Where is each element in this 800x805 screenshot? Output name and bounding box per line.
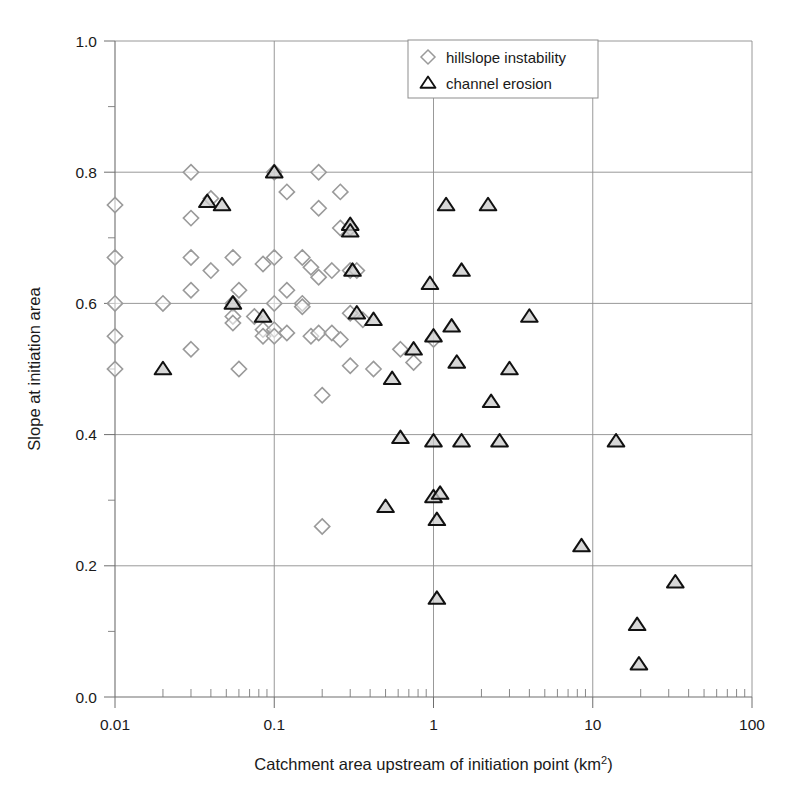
data-point-channel-erosion [608,434,625,446]
x-axis-title-tail: ) [607,755,613,773]
data-point-hillslope-instability [406,355,421,370]
data-point-hillslope-instability [183,165,198,180]
legend-item-label: channel erosion [446,75,552,92]
ticks-group [104,41,752,708]
data-point-channel-erosion [480,198,497,210]
data-point-hillslope-instability [324,263,339,278]
data-point-hillslope-instability [183,342,198,357]
data-point-hillslope-instability [107,296,122,311]
x-tick-label: 100 [739,716,765,733]
data-point-hillslope-instability [279,283,294,298]
y-tick-label: 0.4 [75,426,97,443]
data-point-channel-erosion [155,362,172,374]
data-point-channel-erosion [573,539,590,551]
data-point-channel-erosion [453,263,470,275]
data-point-hillslope-instability [311,201,326,216]
data-point-channel-erosion [501,362,518,374]
data-point-channel-erosion [422,276,439,288]
data-point-hillslope-instability [183,283,198,298]
data-point-hillslope-instability [107,197,122,212]
y-tick-label: 0.6 [75,295,97,312]
data-point-channel-erosion [667,575,684,587]
y-tick-label: 0.2 [75,557,97,574]
y-tick-label: 1.0 [75,33,97,50]
legend: hillslope instabilitychannel erosion [408,40,598,98]
data-point-channel-erosion [438,198,455,210]
data-point-channel-erosion [521,309,538,321]
data-point-channel-erosion [425,329,442,341]
data-point-hillslope-instability [315,388,330,403]
x-axis-title: Catchment area upstream of initiation po… [254,754,612,773]
series-channel-erosion [155,165,684,669]
data-point-channel-erosion [384,372,401,384]
data-point-channel-erosion [443,319,460,331]
data-point-hillslope-instability [343,358,358,373]
data-point-channel-erosion [429,513,446,525]
data-point-hillslope-instability [107,361,122,376]
data-point-hillslope-instability [107,329,122,344]
data-point-channel-erosion [448,355,465,367]
data-point-hillslope-instability [231,361,246,376]
data-point-hillslope-instability [225,250,240,265]
y-tick-label: 0.8 [75,164,97,181]
data-point-hillslope-instability [155,296,170,311]
plot-canvas: 0.00.20.40.60.81.00.010.1110100 hillslop… [0,0,800,805]
data-point-hillslope-instability [183,250,198,265]
y-axis-title: Slope at initiation area [25,287,43,451]
data-point-channel-erosion [483,395,500,407]
data-point-hillslope-instability [183,211,198,226]
data-point-channel-erosion [453,434,470,446]
data-point-channel-erosion [631,657,648,669]
data-point-hillslope-instability [279,184,294,199]
data-point-channel-erosion [377,500,394,512]
data-point-hillslope-instability [203,263,218,278]
data-point-hillslope-instability [315,519,330,534]
legend-item-label: hillslope instability [446,49,567,66]
data-point-channel-erosion [425,434,442,446]
data-point-hillslope-instability [107,250,122,265]
tick-labels-group: 0.00.20.40.60.81.00.010.1110100 [75,33,765,734]
data-point-hillslope-instability [311,165,326,180]
data-point-channel-erosion [429,591,446,603]
data-point-channel-erosion [491,434,508,446]
scatter-plot-figure: 0.00.20.40.60.81.00.010.1110100 hillslop… [0,0,800,805]
x-tick-label: 0.01 [100,716,130,733]
data-point-hillslope-instability [333,184,348,199]
data-point-channel-erosion [392,431,409,443]
data-point-hillslope-instability [366,361,381,376]
x-axis-title-main: Catchment area upstream of initiation po… [254,755,601,773]
x-tick-label: 1 [429,716,438,733]
y-tick-label: 0.0 [75,689,97,706]
x-tick-label: 0.1 [263,716,285,733]
data-point-hillslope-instability [267,296,282,311]
x-tick-label: 10 [584,716,602,733]
data-point-hillslope-instability [279,325,294,340]
data-point-channel-erosion [629,618,646,630]
